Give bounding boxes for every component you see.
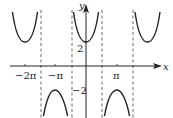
x-tick-pi: π [113,70,120,81]
y-tick-2: 2 [77,43,83,54]
x-tick-neg-2pi: −2π [15,70,37,81]
y-axis-label: y [78,0,85,11]
axes [10,8,158,118]
curve-upper-left [13,12,38,42]
graph: x y −2π −π π 2 −2 [0,0,173,118]
curve-lower-left [44,90,68,116]
y-tick-neg-2: −2 [72,85,87,96]
x-axis-label: x [163,61,169,72]
curve-upper-right [135,12,160,42]
x-tick-neg-pi: −π [48,70,63,81]
curve-lower-right [105,90,130,116]
